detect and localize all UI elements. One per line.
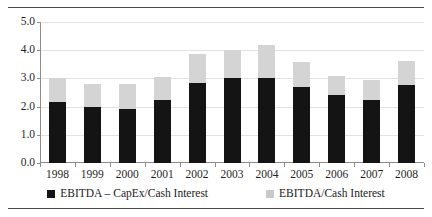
y-tick-mark [37, 22, 41, 23]
x-tick-label-2004: 2004 [255, 169, 278, 181]
legend-entry-1: EBITDA/Cash Interest [266, 188, 385, 200]
x-tick-label-1998: 1998 [46, 169, 69, 181]
x-tick-label-2003: 2003 [221, 169, 244, 181]
x-tick-mark [180, 163, 181, 167]
bar-segment-net [398, 85, 415, 163]
y-tick-label: 5.0 [21, 16, 35, 28]
figure: 0.01.02.03.04.05.0 199819992000200120022… [0, 0, 432, 217]
bar-segment-total [224, 50, 241, 78]
bar-segment-net [258, 78, 275, 163]
bar-2001 [154, 77, 171, 163]
x-tick-mark [215, 163, 216, 167]
y-tick-mark [37, 50, 41, 51]
bar-2006 [328, 76, 345, 163]
bar-segment-total [258, 45, 275, 79]
bar-1998 [49, 78, 66, 163]
bar-2002 [189, 54, 206, 163]
x-tick-label-2001: 2001 [151, 169, 174, 181]
gridline [40, 22, 424, 23]
bar-segment-total [154, 77, 171, 100]
legend-label: EBITDA/Cash Interest [279, 188, 385, 200]
x-tick-mark [249, 163, 250, 167]
x-tick-mark [40, 163, 41, 167]
bar-segment-net [224, 78, 241, 163]
legend-label: EBITDA – CapEx/Cash Interest [60, 188, 208, 200]
x-tick-mark [319, 163, 320, 167]
bar-segment-net [154, 100, 171, 163]
bar-segment-total [363, 80, 380, 100]
x-tick-label-1999: 1999 [81, 169, 104, 181]
bar-segment-total [328, 76, 345, 96]
bar-segment-total [119, 84, 136, 109]
bottom-rule [8, 208, 424, 209]
legend-entry-0: EBITDA – CapEx/Cash Interest [47, 188, 208, 200]
y-tick-mark [37, 78, 41, 79]
x-tick-label-2006: 2006 [325, 169, 348, 181]
bar-segment-total [293, 62, 310, 87]
x-tick-mark [145, 163, 146, 167]
bar-segment-total [84, 84, 101, 107]
y-tick-label: 3.0 [21, 73, 35, 85]
bar-segment-total [398, 61, 415, 85]
bar-segment-net [293, 87, 310, 163]
bar-1999 [84, 84, 101, 163]
x-tick-mark [110, 163, 111, 167]
x-tick-label-2008: 2008 [395, 169, 418, 181]
x-tick-label-2002: 2002 [186, 169, 209, 181]
bar-2000 [119, 84, 136, 163]
bar-2004 [258, 45, 275, 163]
bar-segment-net [49, 102, 66, 163]
x-tick-label-2000: 2000 [116, 169, 139, 181]
bar-2005 [293, 61, 310, 163]
x-tick-mark [424, 163, 425, 167]
bar-segment-total [49, 78, 66, 102]
y-tick-mark [37, 135, 41, 136]
y-axis-line [40, 22, 41, 163]
bar-segment-net [363, 100, 380, 163]
x-tick-mark [75, 163, 76, 167]
y-tick-label: 2.0 [21, 101, 35, 113]
y-tick-mark [37, 107, 41, 108]
bar-segment-net [189, 83, 206, 163]
bar-2008 [398, 61, 415, 163]
top-rule [8, 7, 424, 8]
y-tick-label: 4.0 [21, 44, 35, 56]
plot-area: 0.01.02.03.04.05.0 199819992000200120022… [40, 22, 424, 163]
y-tick-label: 0.0 [21, 157, 35, 169]
x-tick-label-2005: 2005 [290, 169, 313, 181]
x-tick-mark [389, 163, 390, 167]
bar-2007 [363, 80, 380, 163]
x-tick-mark [354, 163, 355, 167]
x-tick-mark [284, 163, 285, 167]
light-square-icon [266, 190, 274, 198]
chart-legend: EBITDA – CapEx/Cash InterestEBITDA/Cash … [0, 186, 432, 202]
bar-segment-net [84, 107, 101, 163]
bar-segment-net [119, 109, 136, 163]
y-tick-label: 1.0 [21, 129, 35, 141]
dark-square-icon [47, 190, 55, 198]
bar-segment-net [328, 95, 345, 163]
x-tick-label-2007: 2007 [360, 169, 383, 181]
bar-2003 [224, 50, 241, 163]
bar-segment-total [189, 54, 206, 82]
